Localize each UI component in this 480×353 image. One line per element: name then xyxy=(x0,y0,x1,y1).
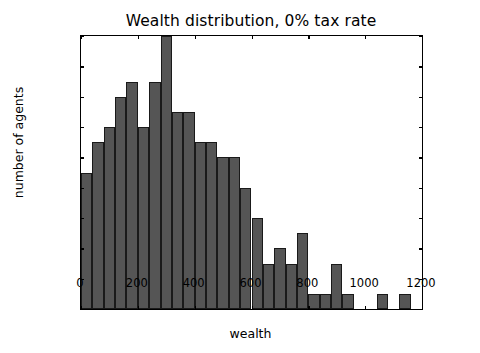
y-tick-mark xyxy=(80,248,84,249)
histogram-bar xyxy=(92,142,103,309)
histogram-bar xyxy=(104,127,115,309)
x-tick-label: 400 xyxy=(183,276,205,290)
histogram-bar xyxy=(263,264,274,310)
histogram-bar xyxy=(126,82,137,310)
histogram-bar xyxy=(297,233,308,309)
y-tick-mark xyxy=(80,66,84,67)
y-tick-mark-right xyxy=(419,66,423,67)
x-tick-label: 1000 xyxy=(350,276,379,290)
y-tick-mark-right xyxy=(419,218,423,219)
y-tick-mark xyxy=(80,36,84,37)
x-tick-label: 0 xyxy=(76,276,83,290)
x-tick-mark-top xyxy=(138,35,139,39)
histogram-bars xyxy=(81,36,422,309)
x-tick-label: 800 xyxy=(296,276,318,290)
x-tick-mark xyxy=(138,306,139,310)
x-tick-label: 600 xyxy=(240,276,262,290)
y-tick-mark-right xyxy=(419,97,423,98)
x-tick-mark-top xyxy=(308,35,309,39)
x-tick-mark xyxy=(365,306,366,310)
x-axis-label: wealth xyxy=(80,326,421,341)
y-tick-mark xyxy=(80,218,84,219)
histogram-bar xyxy=(331,264,342,310)
histogram-bar xyxy=(286,264,297,310)
y-tick-mark xyxy=(80,157,84,158)
y-tick-mark-right xyxy=(419,248,423,249)
histogram-bar xyxy=(172,112,183,309)
histogram-bar xyxy=(274,248,285,309)
x-tick-label: 1200 xyxy=(406,276,435,290)
histogram-bar xyxy=(320,294,331,309)
x-tick-mark-top xyxy=(365,35,366,39)
chart-title: Wealth distribution, 0% tax rate xyxy=(80,12,422,30)
histogram-bar xyxy=(399,294,410,309)
y-axis-label: number of agents xyxy=(11,63,26,223)
plot-area xyxy=(80,35,423,310)
y-tick-mark-right xyxy=(419,157,423,158)
histogram-bar xyxy=(217,157,228,309)
x-tick-mark-top xyxy=(195,35,196,39)
histogram-bar xyxy=(149,82,160,310)
y-tick-mark xyxy=(80,97,84,98)
y-tick-mark xyxy=(80,309,84,310)
y-tick-mark-right xyxy=(419,36,423,37)
histogram-bar xyxy=(308,294,319,309)
y-tick-mark-right xyxy=(419,127,423,128)
figure: Wealth distribution, 0% tax rate 0200400… xyxy=(0,0,480,353)
x-tick-mark xyxy=(308,306,309,310)
y-tick-mark-right xyxy=(419,188,423,189)
histogram-bar xyxy=(377,294,388,309)
x-tick-label: 200 xyxy=(126,276,148,290)
y-tick-mark xyxy=(80,127,84,128)
histogram-bar xyxy=(240,188,251,309)
histogram-bar xyxy=(229,157,240,309)
x-tick-mark xyxy=(195,306,196,310)
histogram-bar xyxy=(342,294,353,309)
y-tick-mark xyxy=(80,188,84,189)
histogram-bar xyxy=(252,218,263,309)
histogram-bar xyxy=(161,36,172,309)
y-tick-mark-right xyxy=(419,309,423,310)
x-tick-mark xyxy=(252,306,253,310)
x-tick-mark-top xyxy=(252,35,253,39)
histogram-bar xyxy=(115,97,126,309)
histogram-bar xyxy=(206,142,217,309)
